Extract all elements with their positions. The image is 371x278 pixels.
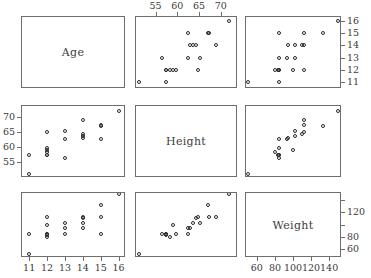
- data-point: [207, 215, 211, 219]
- data-point: [99, 203, 103, 207]
- data-point: [99, 232, 103, 236]
- tick-age-bottom: [119, 257, 120, 261]
- data-point: [214, 215, 218, 219]
- ticklabel-weight-bottom: 100: [284, 263, 302, 273]
- ticklabel-height-left: 55: [3, 158, 15, 168]
- ticklabel-age-right: 14: [347, 40, 359, 50]
- data-point: [186, 56, 190, 60]
- tick-height-top: [156, 12, 157, 16]
- data-point: [227, 193, 231, 196]
- tick-age-right: [341, 58, 345, 59]
- panel-plot-area: Age: [22, 17, 124, 87]
- ticklabel-weight-bottom: 120: [302, 263, 320, 273]
- ticklabel-weight-bottom: 80: [269, 263, 281, 273]
- data-point: [191, 221, 195, 225]
- ticklabel-weight-bottom: 60: [251, 263, 263, 273]
- ticklabel-age-right: 16: [347, 16, 359, 26]
- data-point: [137, 252, 141, 256]
- data-point: [302, 31, 306, 35]
- tick-age-bottom: [29, 257, 30, 261]
- data-point: [81, 221, 85, 225]
- data-point: [27, 252, 31, 256]
- data-point: [321, 31, 325, 35]
- data-point: [277, 31, 281, 35]
- tick-age-bottom: [47, 257, 48, 261]
- panel-plot-area: [136, 193, 236, 256]
- data-point: [246, 172, 250, 176]
- scatter-panel-weight-vs-age: [245, 16, 341, 88]
- data-point: [293, 129, 297, 133]
- scatter-panel-age-vs-height: [21, 105, 125, 177]
- ticklabel-age-bottom: 11: [23, 263, 35, 273]
- panel-plot-area: [246, 17, 340, 87]
- panel-plot-area: Weight: [246, 193, 340, 256]
- data-point: [286, 43, 290, 47]
- diagonal-panel-weight: Weight: [245, 192, 341, 257]
- ticklabel-age-bottom: 12: [41, 263, 53, 273]
- ticklabel-weight-right: 120: [347, 208, 365, 218]
- data-point: [302, 43, 306, 47]
- panel-plot-area: [246, 106, 340, 176]
- data-point: [27, 153, 31, 157]
- data-point: [277, 156, 281, 160]
- tick-height-top: [221, 12, 222, 16]
- data-point: [277, 68, 281, 72]
- tick-height-top: [199, 12, 200, 16]
- ticklabel-weight-bottom: 140: [320, 263, 338, 273]
- ticklabel-age-bottom: 14: [77, 263, 89, 273]
- scatter-panel-weight-vs-height: [245, 105, 341, 177]
- data-point: [198, 56, 202, 60]
- data-point: [302, 123, 306, 127]
- ticklabel-height-left: 60: [3, 142, 15, 152]
- data-point: [286, 136, 290, 140]
- tick-weight-right: [341, 237, 345, 238]
- tick-weight-bottom: [275, 257, 276, 261]
- tick-height-left: [17, 147, 21, 148]
- data-point: [277, 56, 281, 60]
- data-point: [137, 80, 141, 84]
- data-point: [246, 80, 250, 84]
- data-point: [277, 146, 281, 150]
- data-point: [81, 118, 85, 122]
- data-point: [81, 226, 85, 230]
- data-point: [81, 215, 85, 219]
- data-point: [174, 68, 178, 72]
- data-point: [45, 235, 49, 239]
- tick-weight-bottom: [311, 257, 312, 261]
- ticklabel-weight-right: 60: [347, 244, 359, 254]
- data-point: [99, 137, 103, 141]
- data-point: [214, 43, 218, 47]
- ticklabel-height-top: 70: [215, 1, 227, 11]
- scatterplot-matrix: AgeHeightWeight5560657011121314151655606…: [0, 0, 371, 278]
- data-point: [168, 68, 172, 72]
- panel-plot-area: [136, 17, 236, 87]
- tick-weight-right: [341, 212, 345, 213]
- data-point: [273, 68, 277, 72]
- data-point: [164, 80, 168, 84]
- variable-name-label: Height: [136, 135, 236, 148]
- ticklabel-weight-right: 80: [347, 232, 359, 242]
- tick-weight-bottom: [293, 257, 294, 261]
- data-point: [293, 43, 297, 47]
- scatter-panel-age-vs-weight: [21, 192, 125, 257]
- data-point: [63, 221, 67, 225]
- variable-name-label: Weight: [246, 218, 340, 231]
- ticklabel-height-top: 65: [193, 1, 205, 11]
- tick-age-right: [341, 21, 345, 22]
- tick-weight-bottom: [329, 257, 330, 261]
- ticklabel-height-top: 60: [171, 1, 183, 11]
- diagonal-panel-height: Height: [135, 105, 237, 177]
- scatter-panel-height-vs-age: [135, 16, 237, 88]
- tick-age-bottom: [65, 257, 66, 261]
- data-point: [171, 223, 175, 227]
- data-point: [99, 215, 103, 219]
- tick-weight-right: [341, 200, 345, 201]
- data-point: [186, 31, 190, 35]
- ticklabel-age-right: 11: [347, 77, 359, 87]
- tick-age-right: [341, 33, 345, 34]
- data-point: [198, 221, 202, 225]
- ticklabel-age-right: 15: [347, 28, 359, 38]
- tick-height-top: [177, 12, 178, 16]
- ticklabel-age-right: 13: [347, 53, 359, 63]
- data-point: [277, 137, 281, 141]
